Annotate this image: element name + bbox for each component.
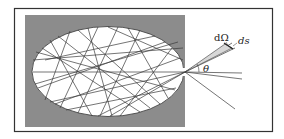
- solid-angle-label: dΩ: [214, 32, 229, 43]
- angle-label: θ: [203, 63, 209, 74]
- surface-element-label: ds: [238, 35, 250, 46]
- cavity-radiation-diagram: dΩ ds θ: [0, 0, 284, 139]
